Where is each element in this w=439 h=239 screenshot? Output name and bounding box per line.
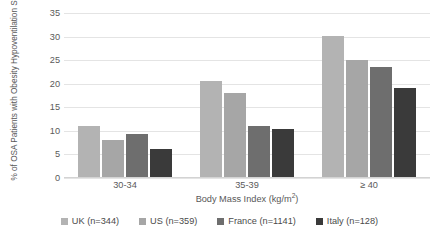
y-axis-tick-label: 20 (50, 79, 60, 89)
y-axis-tick-label: 25 (50, 55, 60, 65)
x-axis-title-text: Body Mass Index (kg/m (196, 194, 292, 204)
bar (126, 134, 148, 178)
y-axis-title: % of OSA Patients with Obesity Hypoventi… (0, 0, 30, 185)
bar (224, 93, 246, 178)
x-axis-ticks: 30-3435-39≥ 40 (64, 180, 430, 194)
x-axis-tick-label: 35-39 (235, 180, 259, 190)
legend-swatch-icon (139, 218, 146, 225)
y-axis-tick-label: 35 (50, 8, 60, 18)
bar (370, 67, 392, 178)
chart-figure: % of OSA Patients with Obesity Hypoventi… (0, 0, 439, 239)
legend-item-label: US (n=359) (150, 216, 197, 226)
y-axis-tick-label: 5 (55, 149, 60, 159)
bar (78, 126, 100, 178)
legend-item[interactable]: US (n=359) (139, 216, 197, 226)
gridline (64, 178, 430, 179)
bar (346, 60, 368, 178)
bar (150, 149, 172, 178)
bar (394, 88, 416, 178)
legend-swatch-icon (316, 218, 323, 225)
legend-item-label: France (n=1141) (228, 216, 296, 226)
plot-area (64, 13, 430, 178)
bar (200, 81, 222, 178)
y-axis-tick-label: 15 (50, 102, 60, 112)
legend-item-label: Italy (n=128) (327, 216, 378, 226)
x-axis-tick-label: ≥ 40 (360, 180, 378, 190)
bar-group (64, 13, 186, 178)
y-axis-ticks: 05101520253035 (30, 13, 60, 178)
legend-item[interactable]: UK (n=344) (61, 216, 119, 226)
bar-group (186, 13, 308, 178)
y-axis-title-text: % of OSA Patients with Obesity Hypoventi… (10, 5, 21, 180)
chart-legend: UK (n=344)US (n=359)France (n=1141)Italy… (0, 216, 439, 226)
x-axis-title: Body Mass Index (kg/m2) (64, 194, 430, 204)
bar (102, 140, 124, 178)
y-axis-tick-label: 30 (50, 32, 60, 42)
legend-swatch-icon (217, 218, 224, 225)
x-axis-tick-label: 30-34 (113, 180, 137, 190)
legend-item[interactable]: France (n=1141) (217, 216, 296, 226)
bar (248, 126, 270, 178)
legend-item-label: UK (n=344) (72, 216, 119, 226)
y-axis-tick-label: 0 (55, 173, 60, 183)
bar (322, 36, 344, 178)
bar-groups (64, 13, 430, 178)
x-axis-title-tail: ) (295, 194, 298, 204)
bar-group (308, 13, 430, 178)
legend-item[interactable]: Italy (n=128) (316, 216, 378, 226)
x-axis-line (64, 177, 430, 178)
legend-swatch-icon (61, 218, 68, 225)
bar (272, 129, 294, 178)
y-axis-tick-label: 10 (50, 126, 60, 136)
